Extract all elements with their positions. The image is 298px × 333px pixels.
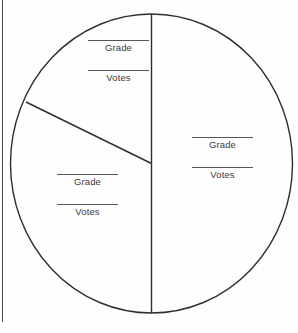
grade-label: Grade	[88, 41, 149, 54]
spacer	[88, 54, 149, 70]
votes-blank-top-left[interactable]: Votes	[88, 70, 149, 84]
sector-bottom-left-blanks: Grade Votes	[57, 174, 118, 218]
pie-radius-diagonal	[26, 102, 152, 164]
grade-blank-bottom-left[interactable]: Grade	[57, 174, 118, 188]
spacer	[192, 151, 253, 167]
votes-blank-bottom-left[interactable]: Votes	[57, 204, 118, 218]
sector-top-left-blanks: Grade Votes	[88, 40, 149, 84]
grade-blank-top-left[interactable]: Grade	[88, 40, 149, 54]
grade-label: Grade	[192, 138, 253, 151]
votes-label: Votes	[88, 71, 149, 84]
votes-label: Votes	[192, 168, 253, 181]
sector-right-blanks: Grade Votes	[192, 137, 253, 181]
worksheet-page: Grade Votes Grade Votes Grade Votes	[0, 0, 298, 333]
grade-blank-right[interactable]: Grade	[192, 137, 253, 151]
grade-label: Grade	[57, 175, 118, 188]
votes-blank-right[interactable]: Votes	[192, 167, 253, 181]
votes-label: Votes	[57, 205, 118, 218]
spacer	[57, 188, 118, 204]
pie-chart-diagram	[0, 0, 298, 333]
